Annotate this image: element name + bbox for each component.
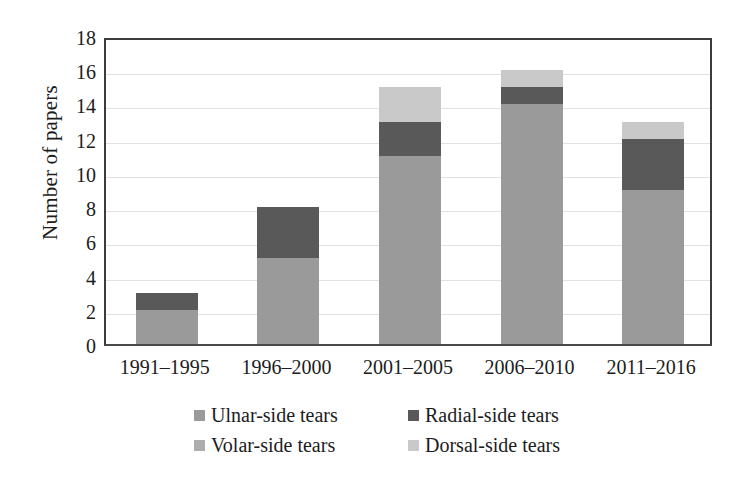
y-axis-tick-label: 12	[58, 131, 96, 151]
bar-segment[interactable]	[622, 122, 684, 139]
chart-legend: Ulnar-side tearsRadial-side tearsVolar-s…	[104, 400, 712, 460]
bar-segment[interactable]	[622, 190, 684, 344]
bar-segment[interactable]	[136, 310, 198, 344]
legend-swatch-icon	[194, 440, 205, 451]
y-axis-tick-label: 2	[58, 302, 96, 322]
bar-group[interactable]	[136, 293, 198, 344]
bar-segment[interactable]	[379, 122, 441, 156]
legend-swatch-icon	[408, 410, 419, 421]
y-axis-tick-label: 8	[58, 199, 96, 219]
y-axis-tick-label: 16	[58, 62, 96, 82]
legend-row: Volar-side tearsDorsal-side tears	[104, 430, 712, 460]
y-axis-tick-label: 14	[58, 96, 96, 116]
bar-group[interactable]	[379, 87, 441, 344]
legend-label: Dorsal-side tears	[425, 435, 560, 455]
legend-swatch-icon	[194, 410, 205, 421]
bar-segment[interactable]	[501, 87, 563, 104]
legend-label: Volar-side tears	[211, 435, 335, 455]
legend-label: Ulnar-side tears	[211, 405, 338, 425]
legend-item[interactable]: Ulnar-side tears	[194, 405, 408, 425]
x-axis-tick-label: 2011–2016	[590, 355, 712, 379]
bar-segment[interactable]	[257, 207, 319, 258]
bar-group[interactable]	[622, 122, 684, 344]
x-axis-tick-label: 2006–2010	[469, 355, 591, 379]
x-axis-tick-label: 2001–2005	[347, 355, 469, 379]
x-axis-tick-label: 1996–2000	[226, 355, 348, 379]
y-axis-tick-label: 10	[58, 165, 96, 185]
bar-segment[interactable]	[501, 104, 563, 344]
y-axis-tick-label: 18	[58, 28, 96, 48]
plot-area	[104, 38, 712, 346]
bar-group[interactable]	[501, 70, 563, 344]
bar-group[interactable]	[257, 207, 319, 344]
y-axis-tick-labels: 181614121086420	[58, 38, 96, 346]
bar-segment[interactable]	[622, 139, 684, 190]
legend-swatch-icon	[408, 440, 419, 451]
x-axis-tick-labels: 1991–19951996–20002001–20052006–20102011…	[104, 355, 712, 385]
y-axis-tick-label: 0	[58, 336, 96, 356]
bar-segment[interactable]	[379, 156, 441, 344]
bar-segment[interactable]	[379, 87, 441, 121]
bar-segment[interactable]	[136, 293, 198, 310]
bar-segment[interactable]	[257, 258, 319, 344]
bars-layer	[106, 40, 710, 344]
legend-label: Radial-side tears	[425, 405, 559, 425]
y-axis-tick-label: 6	[58, 233, 96, 253]
bar-segment[interactable]	[501, 70, 563, 87]
y-axis-tick-label: 4	[58, 268, 96, 288]
legend-item[interactable]: Radial-side tears	[408, 405, 622, 425]
legend-item[interactable]: Dorsal-side tears	[408, 435, 622, 455]
legend-item[interactable]: Volar-side tears	[194, 435, 408, 455]
x-axis-tick-label: 1991–1995	[104, 355, 226, 379]
chart-figure: Number of papers 181614121086420 1991–19…	[0, 0, 747, 492]
legend-row: Ulnar-side tearsRadial-side tears	[104, 400, 712, 430]
